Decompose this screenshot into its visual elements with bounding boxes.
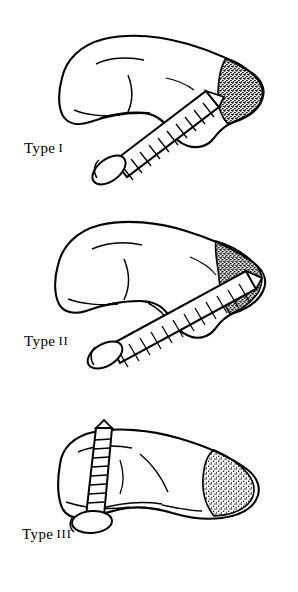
caption-label: Type: [24, 333, 55, 349]
caption-type-3: TypeIII: [22, 526, 72, 543]
drawing-type-2: [0, 205, 298, 385]
caption-type-2: TypeII: [24, 333, 69, 350]
screw-tip: [96, 420, 112, 428]
stippled-fracture-surface: [218, 58, 263, 124]
drawing-type-1: [0, 18, 298, 190]
caption-numeral: II: [58, 334, 68, 348]
caption-numeral: I: [58, 141, 63, 155]
panel-type-1: TypeI: [0, 18, 298, 190]
panel-type-3: TypeIII: [0, 398, 298, 578]
caption-type-1: TypeI: [24, 140, 64, 157]
caption-label: Type: [22, 526, 53, 542]
panel-type-2: TypeII: [0, 205, 298, 385]
stippled-fracture-surface: [203, 450, 254, 516]
anatomical-figure: TypeI: [0, 0, 298, 592]
drawing-type-3: [0, 398, 298, 578]
caption-label: Type: [24, 140, 55, 156]
caption-numeral: III: [56, 527, 72, 541]
